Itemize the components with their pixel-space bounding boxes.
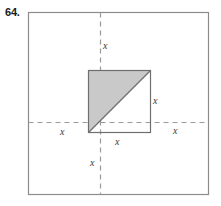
- label-x-below: x: [90, 158, 94, 168]
- label-x-left: x: [60, 127, 64, 137]
- outer-square: [29, 13, 209, 195]
- label-x-bottom-inner: x: [115, 137, 119, 147]
- label-x-top: x: [103, 41, 107, 51]
- label-x-right: x: [153, 96, 157, 106]
- label-x-far-right: x: [173, 126, 177, 136]
- figure-root: 64. x x x x x x: [0, 0, 221, 206]
- geometry-diagram: [0, 0, 221, 206]
